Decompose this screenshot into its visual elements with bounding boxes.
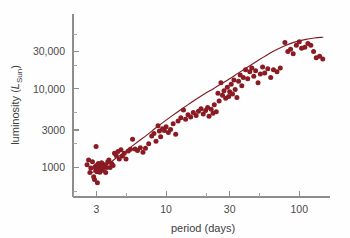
data-point <box>311 49 316 54</box>
data-point <box>239 83 244 88</box>
axis-group <box>73 14 330 197</box>
data-point <box>87 170 92 175</box>
data-point <box>90 159 95 164</box>
x-axis-title: period (days) <box>171 222 235 234</box>
figure-container: 31030100 1000300010,00030,000 period (da… <box>0 0 350 238</box>
y-tick-label: 1000 <box>42 161 66 173</box>
data-point <box>297 39 302 44</box>
data-point <box>320 57 325 62</box>
data-point <box>207 114 212 119</box>
data-point <box>143 146 148 151</box>
data-point <box>262 70 267 75</box>
data-point <box>151 131 156 136</box>
x-tick-label: 100 <box>291 203 309 215</box>
x-tick-label: 30 <box>224 203 236 215</box>
data-point <box>243 67 248 72</box>
data-point <box>230 92 235 97</box>
data-point <box>217 99 222 104</box>
data-point <box>278 65 283 70</box>
data-point <box>225 85 230 90</box>
data-point <box>156 123 161 128</box>
data-point <box>164 124 169 129</box>
data-point <box>308 43 313 48</box>
data-point <box>245 76 250 81</box>
data-point <box>291 51 296 56</box>
data-point <box>253 68 258 73</box>
y-tick-label: 3000 <box>42 124 66 136</box>
data-point <box>173 132 178 137</box>
period-luminosity-scatter-chart: 31030100 1000300010,00030,000 period (da… <box>0 0 350 238</box>
data-point <box>241 75 246 80</box>
data-point <box>199 106 204 111</box>
y-axis-title-subscript: Sun <box>15 69 24 83</box>
data-point <box>85 162 90 167</box>
data-point <box>212 102 217 107</box>
data-point <box>128 147 133 152</box>
data-point <box>260 65 265 70</box>
data-point <box>218 80 223 85</box>
data-point <box>233 87 238 92</box>
data-point <box>154 139 159 144</box>
x-tick-label: 10 <box>160 203 172 215</box>
data-point <box>111 163 116 168</box>
data-point <box>103 170 108 175</box>
y-tick-label: 30,000 <box>33 45 65 57</box>
data-point <box>268 75 273 80</box>
data-points-group <box>85 39 326 185</box>
data-point <box>168 127 173 132</box>
y-axis-title: luminosity (LSun) <box>9 65 24 145</box>
data-point <box>251 74 256 79</box>
y-axis-title-prefix: luminosity ( <box>9 89 21 145</box>
data-point <box>95 180 100 185</box>
data-point <box>130 137 135 142</box>
svg-text:luminosity (LSun): luminosity (LSun) <box>9 65 24 145</box>
data-point <box>229 82 234 87</box>
x-axis-tick-labels: 31030100 <box>94 203 309 215</box>
data-point <box>256 80 261 85</box>
y-axis-tick-labels: 1000300010,00030,000 <box>33 45 65 173</box>
data-point <box>158 134 163 139</box>
y-axis-title-suffix: ) <box>9 65 21 69</box>
data-point <box>178 115 183 120</box>
y-tick-label: 10,000 <box>33 83 65 95</box>
data-point <box>288 47 293 52</box>
data-point <box>274 69 279 74</box>
data-point <box>171 121 176 126</box>
data-point <box>265 66 270 71</box>
data-point <box>146 141 151 146</box>
data-point <box>94 144 99 149</box>
data-point <box>258 71 263 76</box>
data-point <box>282 40 287 45</box>
data-point <box>188 114 193 119</box>
data-point <box>236 79 241 84</box>
data-point <box>194 113 199 118</box>
data-point <box>214 109 219 114</box>
data-point <box>88 166 93 171</box>
data-point <box>215 91 220 96</box>
data-point <box>181 107 186 112</box>
data-point <box>234 95 239 100</box>
data-point <box>183 117 188 122</box>
data-point <box>124 157 129 162</box>
x-tick-label: 3 <box>94 203 100 215</box>
data-point <box>138 145 143 150</box>
data-point <box>231 77 236 82</box>
